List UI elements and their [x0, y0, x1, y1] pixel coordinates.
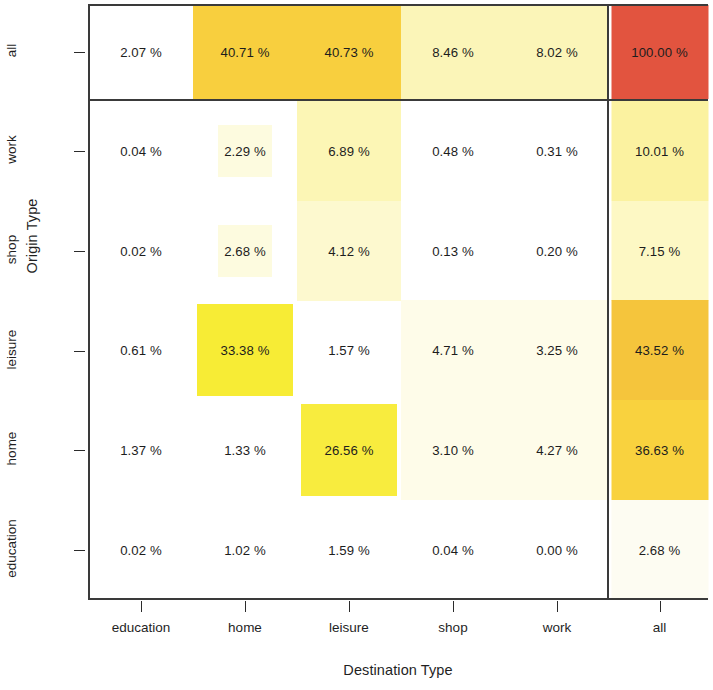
heatmap-cell-value: 3.25 %	[505, 343, 609, 358]
y-tick-mark	[74, 52, 85, 53]
heatmap-cell-value: 1.57 %	[297, 343, 401, 358]
y-tick-mark	[74, 450, 85, 451]
y-tick-mark	[74, 151, 85, 152]
y-axis-title: Origin Type	[24, 166, 40, 306]
heatmap-cell-value: 4.12 %	[297, 243, 401, 258]
heatmap-cell: 2.07 %	[89, 5, 193, 99]
heatmap-cell: 0.02 %	[89, 500, 193, 600]
x-tick-mark	[557, 601, 558, 612]
heatmap-cell: 3.10 %	[401, 400, 505, 500]
heatmap-cell-value: 1.37 %	[89, 443, 193, 458]
heatmap-cell: 36.63 %	[611, 400, 708, 500]
heatmap-cell-value: 0.04 %	[401, 543, 505, 558]
x-tick-label: all	[600, 620, 713, 635]
heatmap-cell-value: 7.15 %	[611, 243, 708, 258]
heatmap-cell-value: 0.02 %	[89, 243, 193, 258]
heatmap-cell-value: 0.02 %	[89, 543, 193, 558]
x-tick-label: home	[185, 620, 305, 635]
heatmap-cell: 26.56 %	[297, 400, 401, 500]
heatmap-cell: 7.15 %	[611, 201, 708, 301]
heatmap-cell-value: 1.33 %	[193, 443, 297, 458]
heatmap-cell-value: 2.29 %	[193, 143, 297, 158]
heatmap-cell: 0.04 %	[401, 500, 505, 600]
heatmap-cell: 10.01 %	[611, 101, 708, 201]
x-tick-mark	[245, 601, 246, 612]
heatmap-cell-value: 8.46 %	[401, 45, 505, 60]
y-tick-label: leisure	[4, 294, 19, 404]
heatmap-cell: 0.00 %	[505, 500, 609, 600]
heatmap-cell: 8.02 %	[505, 5, 609, 99]
plot-frame-top	[88, 4, 708, 6]
heatmap-cell-value: 33.38 %	[193, 343, 297, 358]
heatmap-cell-value: 2.68 %	[611, 543, 708, 558]
heatmap-cell: 0.48 %	[401, 101, 505, 201]
y-tick-label: work	[4, 94, 19, 204]
x-tick-mark	[453, 601, 454, 612]
heatmap-cell: 4.71 %	[401, 301, 505, 401]
heatmap-cell-value: 100.00 %	[611, 45, 708, 60]
heatmap-cell: 2.68 %	[193, 201, 297, 301]
y-tick-label: all	[4, 0, 19, 106]
heatmap-cell: 1.37 %	[89, 400, 193, 500]
heatmap-cell: 0.04 %	[89, 101, 193, 201]
y-tick-label: shop	[4, 194, 19, 304]
heatmap-cell-value: 40.73 %	[297, 45, 401, 60]
heatmap-cell: 40.73 %	[297, 5, 401, 99]
heatmap-cell: 6.89 %	[297, 101, 401, 201]
margin-row-separator	[88, 99, 708, 101]
plot-frame-bottom	[88, 598, 708, 600]
heatmap-cell: 1.59 %	[297, 500, 401, 600]
heatmap-cell-value: 4.71 %	[401, 343, 505, 358]
x-tick-label: leisure	[289, 620, 409, 635]
heatmap-cell-value: 6.89 %	[297, 143, 401, 158]
heatmap-cell-value: 0.04 %	[89, 143, 193, 158]
heatmap-cell: 100.00 %	[611, 5, 708, 99]
heatmap-cell-value: 40.71 %	[193, 45, 297, 60]
heatmap-cell: 4.27 %	[505, 400, 609, 500]
heatmap-cell: 40.71 %	[193, 5, 297, 99]
y-tick-mark	[74, 351, 85, 352]
heatmap-cell: 1.57 %	[297, 301, 401, 401]
margin-column-separator	[607, 4, 609, 600]
heatmap-cell-value: 3.10 %	[401, 443, 505, 458]
x-tick-mark	[349, 601, 350, 612]
heatmap-cell: 1.33 %	[193, 400, 297, 500]
heatmap-cell-value: 2.68 %	[193, 243, 297, 258]
heatmap-cell-value: 0.00 %	[505, 543, 609, 558]
heatmap-cell-value: 2.07 %	[89, 45, 193, 60]
heatmap-cell-value: 43.52 %	[611, 343, 708, 358]
heatmap-cell-value: 1.59 %	[297, 543, 401, 558]
heatmap-cell: 1.02 %	[193, 500, 297, 600]
heatmap-cell-value: 8.02 %	[505, 45, 609, 60]
heatmap-cell-value: 10.01 %	[611, 143, 708, 158]
heatmap-cell-value: 26.56 %	[297, 443, 401, 458]
y-tick-label: home	[4, 394, 19, 504]
heatmap-cell-value: 0.48 %	[401, 143, 505, 158]
heatmap-cell: 33.38 %	[193, 301, 297, 401]
heatmap-cell: 8.46 %	[401, 5, 505, 99]
x-tick-mark	[660, 601, 661, 612]
x-axis-title: Destination Type	[88, 662, 708, 678]
heatmap-cell: 2.68 %	[611, 500, 708, 600]
x-tick-label: shop	[393, 620, 513, 635]
y-tick-label: education	[4, 494, 19, 604]
heatmap-plot-area: 2.07 %40.71 %40.73 %8.46 %8.02 %100.00 %…	[88, 4, 708, 600]
heatmap-cell: 0.20 %	[505, 201, 609, 301]
y-tick-mark	[74, 251, 85, 252]
x-tick-label: education	[81, 620, 201, 635]
heatmap-cell-value: 0.20 %	[505, 243, 609, 258]
heatmap-cell-value: 0.61 %	[89, 343, 193, 358]
heatmap-cell: 0.13 %	[401, 201, 505, 301]
heatmap-cell: 0.02 %	[89, 201, 193, 301]
heatmap-cell-value: 1.02 %	[193, 543, 297, 558]
heatmap-cell: 4.12 %	[297, 201, 401, 301]
plot-frame-left	[88, 4, 90, 600]
heatmap-cell: 0.61 %	[89, 301, 193, 401]
heatmap-cell: 0.31 %	[505, 101, 609, 201]
heatmap-cell: 2.29 %	[193, 101, 297, 201]
heatmap-cell: 43.52 %	[611, 301, 708, 401]
x-tick-mark	[141, 601, 142, 612]
heatmap-cell-value: 36.63 %	[611, 443, 708, 458]
heatmap-cell: 3.25 %	[505, 301, 609, 401]
